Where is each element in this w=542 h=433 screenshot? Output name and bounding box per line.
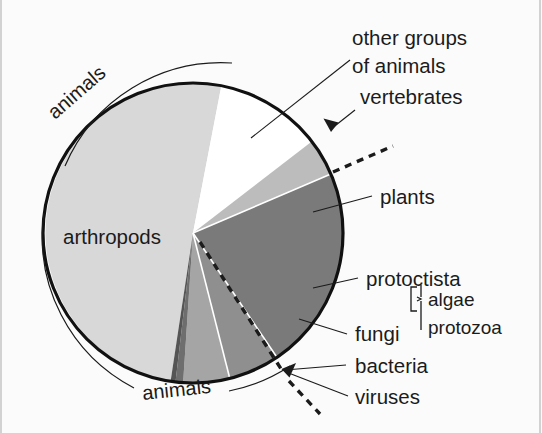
label-animals-bottom: animals (141, 375, 212, 404)
dash-lower-outer (289, 381, 320, 414)
label-other-groups-line2: of animals (352, 54, 445, 77)
pie-chart-diagram: arthropods other groups of animals verte… (0, 0, 542, 433)
label-vertebrates: vertebrates (360, 85, 463, 108)
leader-viruses (286, 372, 348, 396)
label-protozoa: protozoa (428, 317, 502, 338)
figure-canvas: arthropods other groups of animals verte… (0, 0, 542, 433)
bracket-left (411, 287, 417, 311)
protoctista-bracket (411, 285, 421, 330)
label-algae: algae (428, 289, 475, 310)
label-other-groups-line1: other groups (352, 26, 467, 49)
dash-upper-vertebrates-boundary (333, 146, 393, 172)
label-bacteria: bacteria (355, 354, 429, 377)
label-viruses: viruses (355, 385, 420, 408)
label-arthropods: arthropods (63, 225, 161, 248)
label-protoctista: protoctista (366, 267, 461, 290)
label-fungi: fungi (355, 322, 399, 345)
bracket-curl (417, 297, 421, 301)
label-plants: plants (380, 185, 435, 208)
arrowhead-vertebrates (324, 119, 339, 133)
